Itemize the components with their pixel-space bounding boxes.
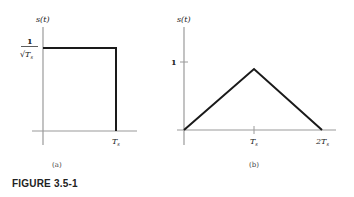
panel-a-y-tick-denominator: √Ts: [20, 50, 33, 60]
panel-b-triangle-pulse: [184, 69, 322, 130]
panel-a: s(t) 1 √Ts Ts (a): [20, 15, 137, 169]
figure-label: FIGURE 3.5-1: [12, 178, 78, 189]
panel-b-x-tick-label-ts: Ts: [250, 137, 258, 147]
panel-a-rect-pulse: [43, 48, 116, 131]
panel-b: s(t) 1 Ts 2Ts (b): [171, 15, 336, 169]
panel-a-caption: (a): [52, 161, 62, 169]
panel-a-x-tick-label: Ts: [112, 137, 120, 147]
panel-a-y-tick-numerator: 1: [27, 36, 33, 46]
panel-b-x-tick-label-2ts: 2Ts: [315, 137, 329, 147]
figure-canvas: s(t) 1 √Ts Ts (a) s(t) 1 Ts 2Ts (b): [0, 0, 354, 197]
panel-a-y-label: s(t): [36, 15, 50, 24]
panel-b-y-tick-label: 1: [171, 57, 177, 67]
panel-b-y-label: s(t): [177, 15, 191, 24]
panel-b-caption: (b): [249, 161, 259, 169]
